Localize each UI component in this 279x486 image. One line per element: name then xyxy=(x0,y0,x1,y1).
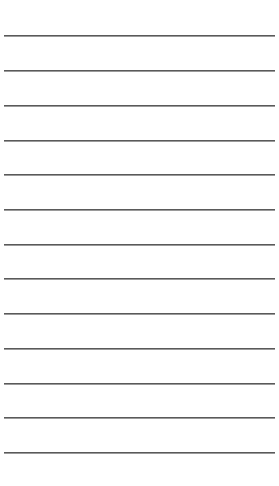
ruled-line xyxy=(4,140,275,142)
ruled-line xyxy=(4,278,275,280)
ruled-line xyxy=(4,244,275,246)
ruled-line xyxy=(4,209,275,211)
ruled-line xyxy=(4,70,275,72)
ruled-line xyxy=(4,383,275,385)
ruled-line xyxy=(4,174,275,176)
ruled-line xyxy=(4,313,275,315)
ruled-line xyxy=(4,452,275,454)
ruled-line xyxy=(4,35,275,37)
ruled-line xyxy=(4,348,275,350)
ruled-line xyxy=(4,417,275,419)
ruled-line xyxy=(4,105,275,107)
lined-paper xyxy=(0,0,279,486)
